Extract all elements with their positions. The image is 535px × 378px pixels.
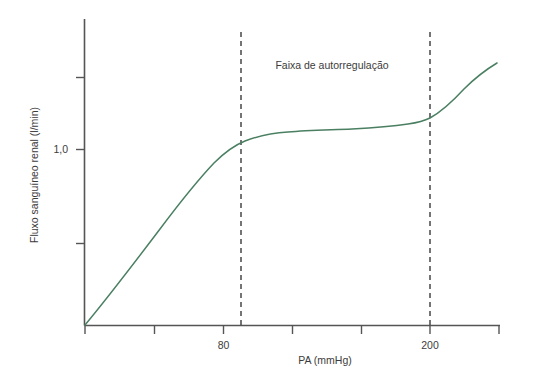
y-axis-title: Fluxo sanguíneo renal (l/min): [28, 107, 40, 243]
x-axis-title: PA (mmHg): [298, 354, 351, 366]
autoregulation-range-label: Faixa de autorregulação: [275, 59, 388, 71]
x-tick-label-80: 80: [218, 339, 230, 351]
chart-background: [0, 0, 535, 378]
chart-canvas: 1,0 80 200 PA (mmHg) Fluxo sanguíneo ren…: [0, 0, 535, 378]
y-tick-label-one: 1,0: [53, 143, 68, 155]
x-tick-label-200: 200: [421, 339, 439, 351]
renal-blood-flow-autoregulation-chart: 1,0 80 200 PA (mmHg) Fluxo sanguíneo ren…: [0, 0, 535, 378]
